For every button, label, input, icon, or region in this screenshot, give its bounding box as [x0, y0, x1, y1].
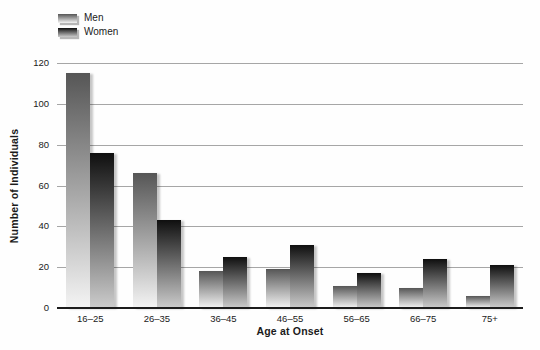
y-tick-120: 120 — [33, 58, 49, 68]
legend-item-women: Women — [58, 27, 118, 37]
bar-men-36–45 — [199, 271, 223, 308]
bar-men-26–35 — [133, 173, 157, 308]
x-tick-66–75: 66–75 — [390, 313, 457, 324]
x-tick-75+: 75+ — [456, 313, 523, 324]
x-tick-46–55: 46–55 — [257, 313, 324, 324]
bar-group-66–75 — [390, 63, 457, 308]
bar-women-56–65 — [357, 273, 381, 308]
bar-men-46–55 — [266, 269, 290, 308]
bar-group-26–35 — [124, 63, 191, 308]
bar-group-16–25 — [57, 63, 124, 308]
bar-group-75+ — [456, 63, 523, 308]
legend-label-women: Women — [84, 27, 118, 37]
bar-women-26–35 — [157, 220, 181, 308]
x-tick-36–45: 36–45 — [190, 313, 257, 324]
x-axis-line — [57, 307, 523, 309]
bar-men-56–65 — [333, 286, 357, 308]
legend-item-men: Men — [58, 13, 118, 23]
bar-women-75+ — [490, 265, 514, 308]
x-axis-tick-labels: 16–2526–3536–4546–5556–6566–7575+ — [57, 313, 523, 324]
bar-groups — [57, 63, 523, 308]
y-tick-60: 60 — [38, 181, 49, 191]
y-tick-40: 40 — [38, 222, 49, 232]
bar-group-56–65 — [323, 63, 390, 308]
x-tick-26–35: 26–35 — [124, 313, 191, 324]
y-axis-title: Number of Individuals — [8, 129, 20, 243]
legend-label-men: Men — [84, 13, 103, 23]
plot-area: 020406080100120 — [57, 63, 523, 308]
bar-group-46–55 — [257, 63, 324, 308]
bar-men-16–25 — [66, 73, 90, 308]
x-tick-16–25: 16–25 — [57, 313, 124, 324]
bar-women-16–25 — [90, 153, 114, 308]
bar-women-66–75 — [423, 259, 447, 308]
chart-legend: Men Women — [58, 13, 118, 37]
x-axis-title: Age at Onset — [57, 325, 523, 337]
y-tick-20: 20 — [38, 262, 49, 272]
bar-men-66–75 — [399, 288, 423, 308]
men-series-swatch-icon — [58, 14, 77, 23]
y-tick-100: 100 — [33, 99, 49, 109]
y-tick-0: 0 — [44, 303, 49, 313]
y-tick-80: 80 — [38, 140, 49, 150]
bar-women-36–45 — [223, 257, 247, 308]
bar-chart-figure: Men Women Number of Individuals 02040608… — [0, 0, 540, 350]
x-tick-56–65: 56–65 — [323, 313, 390, 324]
bar-group-36–45 — [190, 63, 257, 308]
women-series-swatch-icon — [58, 28, 77, 37]
bar-women-46–55 — [290, 245, 314, 308]
